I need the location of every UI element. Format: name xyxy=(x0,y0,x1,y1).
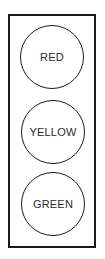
yellow-light-label: YELLOW xyxy=(29,127,76,138)
green-light-label: GREEN xyxy=(33,199,73,210)
green-light: GREEN xyxy=(21,172,85,236)
red-light: RED xyxy=(20,25,84,89)
red-light-label: RED xyxy=(40,52,64,63)
traffic-light-housing: RED YELLOW GREEN xyxy=(8,14,96,248)
yellow-light: YELLOW xyxy=(21,100,85,164)
